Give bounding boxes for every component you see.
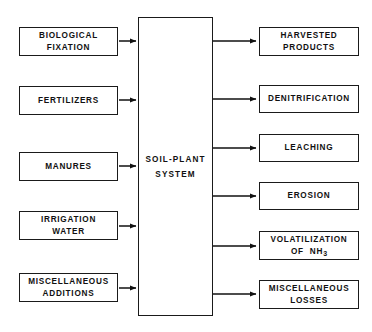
node-harvested-products: HARVESTED PRODUCTS	[259, 27, 359, 56]
soil-plant-system-diagram: SOIL-PLANT SYSTEM BIOLOGICAL FIXATION FE…	[0, 0, 372, 332]
node-fertilizers-line1: FERTILIZERS	[38, 96, 99, 105]
node-miscellaneous-additions-line2: ADDITIONS	[28, 288, 109, 300]
node-denitrification: DENITRIFICATION	[259, 85, 359, 113]
node-harvested-products-line1: HARVESTED	[280, 31, 337, 40]
node-biological-fixation-line2: FIXATION	[39, 42, 98, 54]
node-soil-plant-system-label-line2: SYSTEM	[145, 167, 205, 182]
node-fertilizers: FERTILIZERS	[19, 86, 118, 115]
node-biological-fixation: BIOLOGICAL FIXATION	[19, 27, 118, 56]
node-volatilization-of-nh3-line1: VOLATILIZATION	[270, 235, 347, 244]
node-irrigation-water-line1: IRRIGATION	[41, 215, 96, 224]
output-arrows	[213, 41, 256, 294]
node-miscellaneous-additions-line1: MISCELLANEOUS	[28, 277, 109, 286]
node-erosion: EROSION	[259, 182, 359, 210]
node-volatilization-of-nh3-line2: OF NH3	[270, 246, 347, 258]
node-miscellaneous-losses: MISCELLANEOUS LOSSES	[259, 280, 359, 309]
node-harvested-products-line2: PRODUCTS	[280, 42, 337, 54]
node-denitrification-line1: DENITRIFICATION	[268, 94, 350, 103]
node-manures-line1: MANURES	[45, 162, 92, 171]
node-leaching: LEACHING	[259, 134, 359, 162]
node-soil-plant-system-label-line1: SOIL-PLANT	[145, 155, 205, 164]
node-irrigation-water: IRRIGATION WATER	[19, 211, 118, 240]
node-volatilization-of-nh3: VOLATILIZATION OF NH3	[259, 231, 359, 260]
node-soil-plant-system: SOIL-PLANT SYSTEM	[138, 17, 213, 316]
node-biological-fixation-line1: BIOLOGICAL	[39, 31, 98, 40]
node-miscellaneous-losses-line1: MISCELLANEOUS	[269, 284, 350, 293]
node-miscellaneous-losses-line2: LOSSES	[269, 295, 350, 307]
input-arrows	[119, 41, 136, 288]
node-miscellaneous-additions: MISCELLANEOUS ADDITIONS	[19, 273, 118, 302]
node-manures: MANURES	[19, 152, 118, 181]
node-erosion-line1: EROSION	[287, 191, 330, 200]
node-leaching-line1: LEACHING	[285, 143, 334, 152]
node-irrigation-water-line2: WATER	[41, 226, 96, 238]
